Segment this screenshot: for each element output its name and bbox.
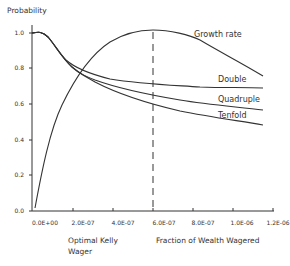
y-tick-label: 0.0 (14, 207, 24, 214)
tenfold-label: Tenfold (217, 111, 247, 120)
y-tick-label: 0.8 (14, 64, 24, 71)
x-tick-label: 1.2E-06 (266, 219, 289, 226)
y-tick-label: 1.0 (14, 29, 24, 36)
x-tick-label: 6.0E-07 (152, 219, 175, 226)
y-axis-title: Probability (7, 6, 47, 15)
x-tick-label: 4.0E-07 (111, 219, 134, 226)
y-tick-label: 0.6 (14, 100, 24, 107)
y-tick-label: 0.4 (14, 136, 24, 143)
double-label: Double (218, 75, 246, 84)
x-tick-label: 0.0E+00 (32, 219, 58, 226)
x-tick-label: 8.0E-07 (191, 219, 214, 226)
growth-rate-label: Growth rate (194, 30, 242, 39)
y-ticks: 0.0 0.2 0.4 0.6 0.8 1.0 (14, 29, 32, 214)
x-tick-label: 2.0E-07 (71, 219, 94, 226)
kelly-annotation-line2: Wager (68, 247, 93, 256)
kelly-chart: Probability 0.0 0.2 0.4 0.6 0.8 1.0 0.0E… (0, 0, 290, 266)
x-axis-title: Fraction of Wealth Wagered (156, 236, 260, 245)
x-tick-label: 1.0E-06 (230, 219, 253, 226)
quadruple-label: Quadruple (218, 95, 260, 104)
y-tick-label: 0.2 (14, 171, 24, 178)
kelly-annotation-line1: Optimal Kelly (68, 236, 118, 245)
